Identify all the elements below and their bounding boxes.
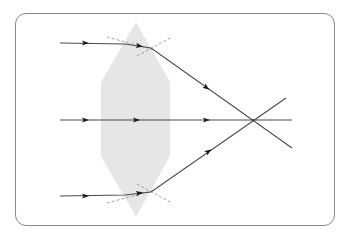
light-ray-bottom	[60, 98, 286, 196]
light-rays	[60, 43, 292, 196]
focal-point	[252, 119, 254, 121]
lens-diagram	[0, 0, 353, 235]
light-ray-top	[60, 43, 292, 148]
